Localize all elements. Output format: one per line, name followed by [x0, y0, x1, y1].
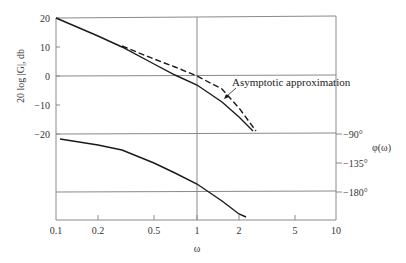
- mag-tick-10: 10: [40, 42, 50, 53]
- x-ticks: [98, 215, 295, 220]
- mag-y-axis-title: 20 log |G|, db: [15, 49, 26, 103]
- bode-plot: 20 10 0 −10 −20 20 log |G|, db −90° −135…: [0, 0, 406, 263]
- top-border: [56, 16, 336, 18]
- phase-y-tick-labels: −90° −135° −180°: [343, 129, 368, 198]
- mag-tick-minus10: −10: [34, 100, 50, 111]
- x-tick-labels: 0.1 0.2 0.5 1 2 5 10: [50, 225, 341, 236]
- x-axis-title: ω: [194, 243, 201, 254]
- x-tick-0.1: 0.1: [50, 225, 63, 236]
- phase-tick-minus135: −135°: [343, 158, 368, 169]
- plot-frame: [56, 16, 336, 220]
- mag-y-ticks: [56, 18, 60, 134]
- phase-tick-minus90: −90°: [343, 129, 363, 140]
- x-tick-0.2: 0.2: [92, 225, 105, 236]
- magnitude-curves: [56, 18, 256, 131]
- phase-y-ticks: [336, 134, 342, 192]
- annotation: Asymptotic approximation: [224, 76, 351, 99]
- phase-curve-line: [60, 139, 246, 217]
- x-tick-1: 1: [195, 225, 200, 236]
- gridline-minus20db-minus90deg: [56, 133, 336, 134]
- annotation-asymptotic-approximation: Asymptotic approximation: [232, 76, 351, 88]
- phase-y-axis-title: φ(ω): [372, 142, 391, 154]
- x-tick-2: 2: [237, 225, 242, 236]
- x-tick-10: 10: [331, 225, 341, 236]
- magnitude-exact-line: [56, 18, 253, 131]
- phase-tick-minus180: −180°: [343, 187, 368, 198]
- x-tick-5: 5: [293, 225, 298, 236]
- mag-y-tick-labels: 20 10 0 −10 −20: [34, 13, 50, 140]
- mag-tick-20: 20: [40, 13, 50, 24]
- mag-tick-minus20: −20: [34, 129, 50, 140]
- gridline-minus180deg: [56, 191, 336, 192]
- x-tick-0.5: 0.5: [148, 225, 161, 236]
- mag-tick-0: 0: [45, 71, 50, 82]
